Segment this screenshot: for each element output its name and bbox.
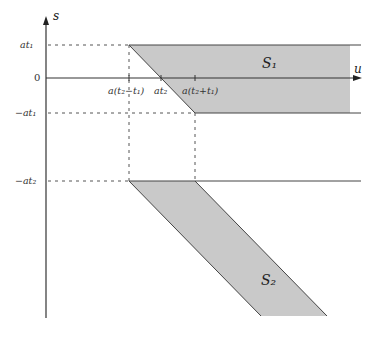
x-tick-a-t2-plus-t1: a(t₂+t₁) [182, 85, 219, 96]
diagram-canvas: s u at₁ 0 −at₁ −at₂ a(t₂−t₁) at₂ a(t₂+t₁… [0, 0, 379, 339]
y-tick-neg-at2: −at₂ [15, 175, 36, 186]
region-s2 [129, 181, 327, 316]
region-s1-label: S₁ [262, 55, 277, 71]
region-s2-label: S₂ [261, 272, 277, 288]
u-axis-label: u [354, 62, 362, 76]
y-tick-zero: 0 [34, 72, 40, 83]
x-tick-a-t2-minus-t1: a(t₂−t₁) [108, 85, 145, 96]
s-axis-label: s [53, 9, 59, 23]
s-axis-arrow-icon [43, 16, 49, 25]
y-tick-at1: at₁ [20, 39, 33, 50]
y-tick-neg-at1: −at₁ [15, 107, 36, 118]
x-tick-at2: at₂ [154, 85, 167, 96]
